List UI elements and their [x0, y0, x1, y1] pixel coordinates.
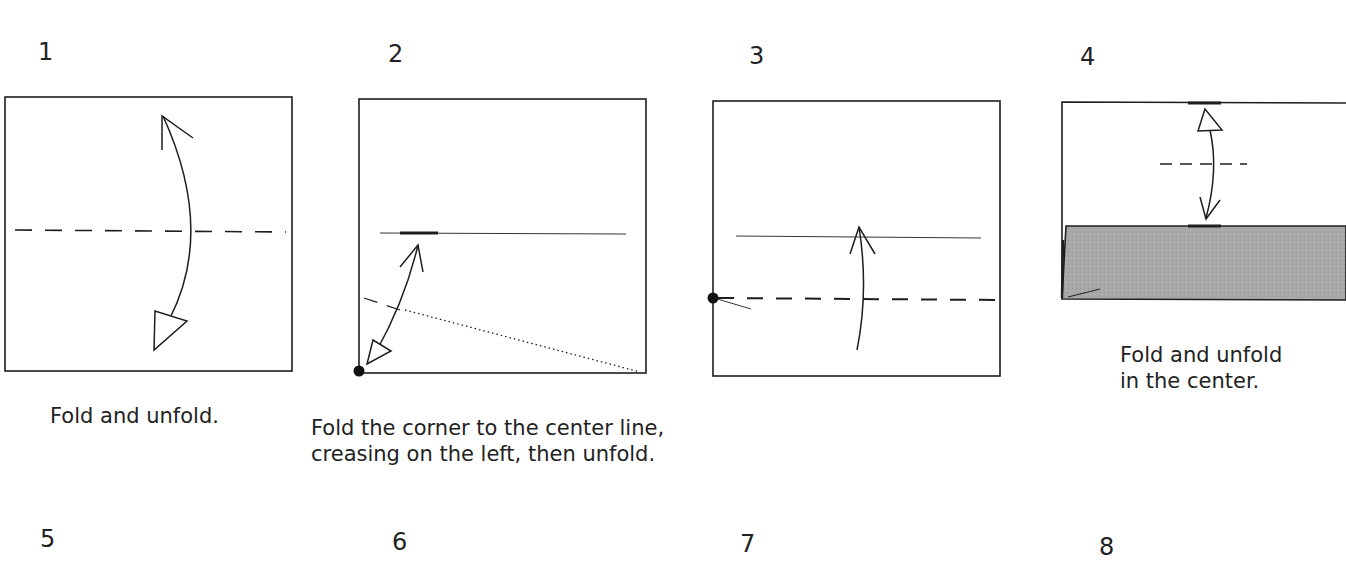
step-3-diagram [708, 101, 1001, 376]
paper-square [5, 97, 292, 371]
step-2-diagram [354, 99, 647, 377]
folded-flap-colored-side [1062, 226, 1346, 300]
flap-left-edge-thick [1062, 240, 1063, 298]
step-4-diagram [1062, 102, 1346, 300]
arrowhead-hollow-icon [1198, 109, 1222, 131]
step-1-diagram [5, 97, 292, 371]
corner-dot-icon [354, 366, 365, 377]
paper-square [359, 99, 646, 373]
fold-diagrams [0, 0, 1346, 587]
edge-dot-icon [708, 293, 719, 304]
paper-square [713, 101, 1000, 376]
fold-unfold-arrow-icon [1206, 130, 1214, 218]
